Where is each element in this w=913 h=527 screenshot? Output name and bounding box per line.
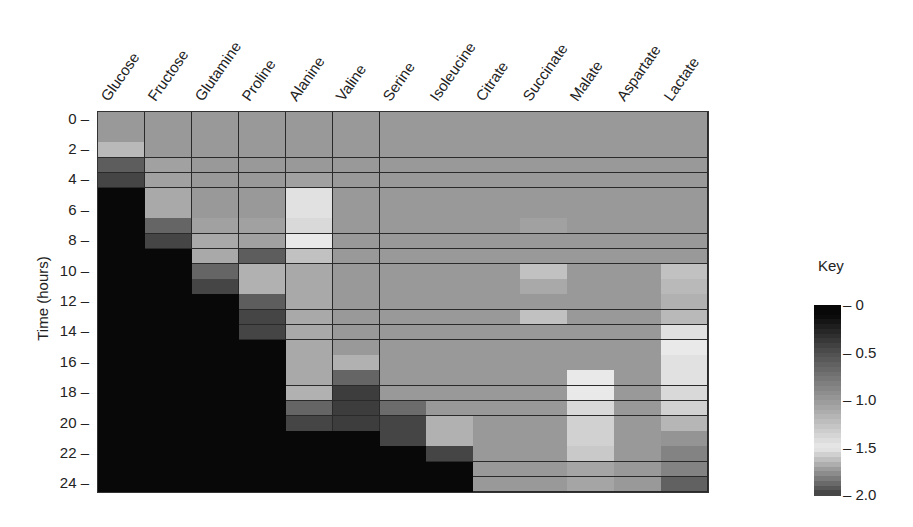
- heatmap-cell: [614, 127, 661, 143]
- heatmap-cell: [380, 279, 427, 295]
- heatmap-cell: [473, 142, 520, 158]
- heatmap-cell: [426, 355, 473, 371]
- heatmap-cell: [567, 234, 614, 250]
- heatmap-cell: [520, 218, 567, 234]
- heatmap-cell: [473, 431, 520, 447]
- heatmap-cell: [567, 416, 614, 432]
- heatmap-cell: [98, 446, 145, 462]
- column-label: Isoleucine: [426, 39, 479, 104]
- heatmap-cell: [192, 431, 239, 447]
- heatmap-cell: [333, 158, 380, 174]
- column-label: Citrate: [473, 58, 512, 104]
- heatmap-cell: [286, 127, 333, 143]
- heatmap-cell: [661, 158, 708, 174]
- heatmap-cell: [567, 188, 614, 204]
- heatmap-cell: [192, 386, 239, 402]
- heatmap-cell: [239, 264, 286, 280]
- heatmap-cell: [380, 188, 427, 204]
- colorbar-title: Key: [818, 257, 844, 274]
- heatmap-cell: [333, 188, 380, 204]
- heatmap-cell: [98, 112, 145, 128]
- heatmap-cell: [192, 203, 239, 219]
- heatmap-cell: [98, 401, 145, 417]
- heatmap-cell: [380, 234, 427, 250]
- heatmap-cell: [473, 325, 520, 341]
- heatmap-cell: [98, 294, 145, 310]
- colorbar-segment: [814, 490, 841, 495]
- heatmap-chart: GlucoseFructoseGlutamineProlineAlanineVa…: [0, 0, 913, 527]
- heatmap-cell: [614, 249, 661, 265]
- heatmap-cell: [145, 416, 192, 432]
- heatmap-cell: [333, 279, 380, 295]
- heatmap-cell: [567, 431, 614, 447]
- y-tick-label: 24 –: [49, 474, 89, 491]
- heatmap-cell: [567, 386, 614, 402]
- heatmap-cell: [333, 173, 380, 189]
- heatmap-cell: [333, 462, 380, 478]
- heatmap-cell: [473, 234, 520, 250]
- heatmap-cell: [145, 294, 192, 310]
- heatmap-cell: [567, 340, 614, 356]
- heatmap-cell: [426, 294, 473, 310]
- y-tick-label: 22 –: [49, 444, 89, 461]
- heatmap-cell: [614, 310, 661, 326]
- heatmap-cell: [661, 279, 708, 295]
- heatmap-cell: [145, 127, 192, 143]
- heatmap-cell: [426, 279, 473, 295]
- heatmap-cell: [614, 446, 661, 462]
- heatmap-cell: [567, 249, 614, 265]
- heatmap-cell: [333, 142, 380, 158]
- heatmap-cell: [661, 416, 708, 432]
- heatmap-cell: [426, 249, 473, 265]
- heatmap-cell: [380, 431, 427, 447]
- heatmap-cell: [98, 462, 145, 478]
- y-tick-label: 12 –: [49, 292, 89, 309]
- heatmap-cell: [567, 294, 614, 310]
- heatmap-cell: [567, 142, 614, 158]
- heatmap-cell: [661, 234, 708, 250]
- heatmap-cell: [661, 294, 708, 310]
- heatmap-cell: [192, 218, 239, 234]
- heatmap-cell: [98, 279, 145, 295]
- heatmap-cell: [145, 340, 192, 356]
- heatmap-grid: [97, 111, 709, 493]
- heatmap-cell: [239, 188, 286, 204]
- heatmap-cell: [520, 294, 567, 310]
- heatmap-cell: [98, 127, 145, 143]
- heatmap-cell: [286, 158, 333, 174]
- y-tick-label: 2 –: [49, 140, 89, 157]
- heatmap-cell: [239, 218, 286, 234]
- heatmap-cell: [333, 355, 380, 371]
- heatmap-cell: [661, 310, 708, 326]
- heatmap-cell: [520, 386, 567, 402]
- heatmap-cell: [333, 477, 380, 493]
- heatmap-cell: [239, 112, 286, 128]
- heatmap-cell: [567, 264, 614, 280]
- heatmap-cell: [380, 264, 427, 280]
- heatmap-cell: [520, 477, 567, 493]
- heatmap-cell: [98, 218, 145, 234]
- heatmap-cell: [614, 218, 661, 234]
- heatmap-cell: [239, 310, 286, 326]
- heatmap-cell: [426, 203, 473, 219]
- heatmap-cell: [239, 431, 286, 447]
- heatmap-cell: [614, 416, 661, 432]
- heatmap-cell: [614, 325, 661, 341]
- heatmap-cell: [426, 112, 473, 128]
- y-tick-label: 10 –: [49, 262, 89, 279]
- heatmap-cell: [286, 446, 333, 462]
- heatmap-cell: [98, 188, 145, 204]
- heatmap-cell: [333, 340, 380, 356]
- y-tick-label: 20 –: [49, 414, 89, 431]
- heatmap-cell: [520, 462, 567, 478]
- heatmap-cell: [98, 264, 145, 280]
- heatmap-cell: [192, 112, 239, 128]
- heatmap-cell: [661, 264, 708, 280]
- heatmap-cell: [614, 355, 661, 371]
- heatmap-cell: [239, 294, 286, 310]
- heatmap-cell: [98, 477, 145, 493]
- heatmap-cell: [614, 188, 661, 204]
- y-tick-label: 0 –: [49, 110, 89, 127]
- heatmap-cell: [520, 446, 567, 462]
- heatmap-cell: [98, 355, 145, 371]
